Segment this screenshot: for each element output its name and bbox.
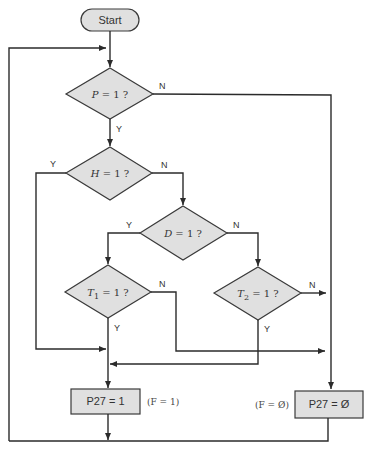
d-no-label: N <box>233 220 240 230</box>
t1-no-label: N <box>159 279 166 289</box>
decision-t2: T2 = 1 ? <box>214 267 301 320</box>
t1-yes-label: Y <box>114 323 120 333</box>
t2-yes-label: Y <box>264 324 270 334</box>
connector-p27-zero-out <box>9 418 328 441</box>
process-p27-zero: P27 = Ø <box>295 391 363 418</box>
p27-one-note: (F = 1) <box>147 397 179 407</box>
decision-h-text: H = 1 ? <box>90 168 129 179</box>
connector-h-yes <box>36 173 106 349</box>
connector-d-no <box>227 233 258 266</box>
p-yes-label: Y <box>116 124 122 134</box>
flowchart: Start P = 1 ? N Y H = 1 ? Y N D = 1 ? Y … <box>0 0 370 452</box>
decision-p: P = 1 ? <box>66 68 153 119</box>
p27-zero-label: P27 = Ø <box>309 398 350 410</box>
process-p27-one: P27 = 1 <box>71 389 140 414</box>
decision-d-text: D = 1 ? <box>163 228 202 239</box>
connector-t2-yes <box>110 320 258 364</box>
connector-h-no <box>152 173 183 205</box>
decision-t1: T1 = 1 ? <box>65 265 151 318</box>
p-no-label: N <box>159 81 166 91</box>
t2-no-label: N <box>309 280 316 290</box>
h-no-label: N <box>161 160 168 170</box>
h-yes-label: Y <box>50 159 56 169</box>
decision-p-text: P = 1 ? <box>91 89 128 100</box>
p27-zero-note: (F = Ø) <box>255 400 289 410</box>
decision-d: D = 1 ? <box>140 206 227 260</box>
d-yes-label: Y <box>126 220 132 230</box>
connector-d-yes <box>108 233 140 264</box>
decision-h: H = 1 ? <box>66 147 152 200</box>
start-node: Start <box>81 9 139 31</box>
start-label: Start <box>98 14 121 26</box>
p27-one-label: P27 = 1 <box>86 395 124 407</box>
